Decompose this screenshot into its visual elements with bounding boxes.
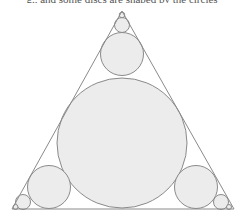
circles-group bbox=[13, 12, 232, 209]
inscribed-circles-diagram bbox=[0, 0, 244, 217]
bottom-left-medium-circle bbox=[28, 166, 71, 209]
center-large-circle bbox=[57, 78, 187, 208]
bottom-right-medium-circle bbox=[175, 166, 218, 209]
